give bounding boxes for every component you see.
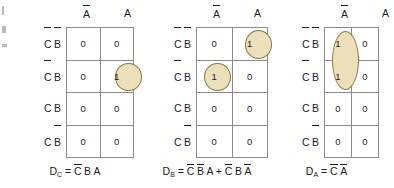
row-header-0: CB <box>146 27 196 60</box>
variable-c-negated: C <box>302 60 310 94</box>
column-header-0: A <box>66 5 107 21</box>
kmap-cell-value: 1 <box>247 38 252 49</box>
column-header-row: AA <box>196 5 278 21</box>
row-header-label-3: CB <box>174 136 191 148</box>
kmap-cell-value: 0 <box>247 136 252 147</box>
row-header-label-2: CB <box>302 102 319 114</box>
equation-term-1: CBA <box>225 165 252 177</box>
variable-a-negated: A <box>340 164 347 177</box>
kmap-cell-r3c0[interactable]: 0 <box>325 125 352 158</box>
kmap-cell-value: 0 <box>81 136 86 147</box>
variable-c: C <box>302 102 310 114</box>
kmap-cell-r1c1[interactable]: 0 <box>232 60 268 93</box>
row-header-0: CB <box>274 27 324 60</box>
kmap-cell-value: 0 <box>362 71 367 82</box>
variable-c-negated: C <box>187 164 195 177</box>
variable-a: A <box>254 7 261 19</box>
kmap-cell-value: 0 <box>247 103 252 114</box>
variable-c-negated: C <box>330 164 338 177</box>
kmap-cell-value: 0 <box>114 136 119 147</box>
kmap-cell-value: 0 <box>212 103 217 114</box>
kmap-cell-value: 0 <box>81 103 86 114</box>
row-header-column: CBCBCBCB <box>274 27 324 157</box>
variable-a: A <box>382 7 389 19</box>
plus-sign: + <box>213 165 225 177</box>
kmap-cell-r0c0[interactable]: 0 <box>197 28 233 61</box>
column-header-label-0: A <box>83 8 90 20</box>
equals-sign: = <box>62 165 74 177</box>
kmap-row-3: 00 <box>197 125 268 158</box>
kmap-cell-value: 0 <box>335 103 340 114</box>
variable-b: B <box>54 102 61 114</box>
variable-b-negated: B <box>312 27 319 61</box>
kmap-cell-value: 0 <box>81 38 86 49</box>
kmap-row-2: 00 <box>325 93 379 126</box>
equation-output-symbol: D <box>49 165 57 177</box>
kmap-row-2: 00 <box>67 93 134 126</box>
kmap-cell-value: 0 <box>247 71 252 82</box>
kmap-cell-r3c0[interactable]: 0 <box>197 125 233 158</box>
output-equation-c: DC = CBA <box>16 164 134 178</box>
column-header-1: A <box>237 5 278 21</box>
map-dc: AACBCBCBCB00010000DC = CBA <box>16 0 134 188</box>
variable-b: B <box>54 71 61 83</box>
variable-c: C <box>174 102 182 114</box>
variable-b-negated: B <box>54 125 61 159</box>
variable-a-negated: A <box>213 5 220 22</box>
row-header-3: CB <box>16 125 66 158</box>
kmap-cell-r3c1[interactable]: 0 <box>352 125 379 158</box>
variable-c-negated: C <box>174 27 182 61</box>
column-header-1: A <box>365 5 394 21</box>
kmap-row-3: 00 <box>67 125 134 158</box>
map-da: AACBCBCBCB10100000DA = CA <box>274 0 379 188</box>
kmap-cell-r0c1[interactable]: 0 <box>100 28 134 61</box>
column-header-1: A <box>107 5 148 21</box>
kmap-cell-value: 1 <box>212 71 217 82</box>
variable-b-negated: B <box>197 164 204 177</box>
row-header-2: CB <box>274 92 324 125</box>
output-equation-a: DA = CA <box>274 164 379 178</box>
kmap-grid-wrapper: 10100000 <box>324 27 379 158</box>
variable-b: B <box>312 102 319 114</box>
variable-c-negated: C <box>225 164 233 177</box>
kmap-cell-r3c0[interactable]: 0 <box>67 125 101 158</box>
kmap-cell-r2c1[interactable]: 0 <box>232 93 268 126</box>
variable-c-negated: C <box>44 27 52 61</box>
row-header-0: CB <box>16 27 66 60</box>
kmap-cell-r2c0[interactable]: 0 <box>67 93 101 126</box>
variable-a-negated: A <box>244 164 251 177</box>
column-header-0: A <box>196 5 237 21</box>
kmap-grid-wrapper: 01100000 <box>196 27 268 158</box>
variable-c: C <box>302 136 310 148</box>
kmap-cell-r1c0[interactable]: 0 <box>67 60 101 93</box>
row-header-label-1: CB <box>174 71 191 83</box>
kmap-cell-value: 0 <box>114 38 119 49</box>
kmap-cell-r2c1[interactable]: 0 <box>100 93 134 126</box>
row-header-label-2: CB <box>174 102 191 114</box>
kmap-grid-wrapper: 00010000 <box>66 27 134 158</box>
column-header-label-1: A <box>382 7 389 19</box>
row-header-label-2: CB <box>44 102 61 114</box>
equation-term-0: CA <box>330 165 347 177</box>
kmap-cell-r2c1[interactable]: 0 <box>352 93 379 126</box>
column-header-label-0: A <box>341 8 348 20</box>
row-header-label-0: CB <box>302 38 319 50</box>
column-header-row: AA <box>66 5 148 21</box>
kmap-cell-r0c0[interactable]: 0 <box>67 28 101 61</box>
kmap-cell-r3c1[interactable]: 0 <box>232 125 268 158</box>
kmap-cell-r3c1[interactable]: 0 <box>100 125 134 158</box>
kmap-cell-value: 0 <box>362 136 367 147</box>
kmap-cell-value: 0 <box>212 38 217 49</box>
row-header-label-3: CB <box>44 136 61 148</box>
row-header-label-1: CB <box>302 71 319 83</box>
row-header-1: CB <box>274 60 324 93</box>
row-header-2: CB <box>16 92 66 125</box>
equation-term-0: CBA <box>74 165 101 177</box>
variable-b-negated: B <box>312 125 319 159</box>
column-header-label-1: A <box>124 7 131 19</box>
group-cell-r1c1 <box>115 63 142 92</box>
variable-c-negated: C <box>44 60 52 94</box>
kmap-cell-r2c0[interactable]: 0 <box>197 93 233 126</box>
kmap-cell-r2c0[interactable]: 0 <box>325 93 352 126</box>
